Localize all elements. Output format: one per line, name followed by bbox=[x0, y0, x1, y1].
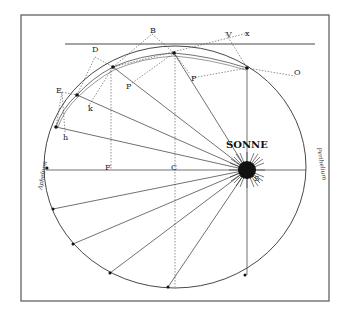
upper-radii bbox=[56, 53, 247, 170]
sun-icon bbox=[229, 152, 265, 188]
label-V: V bbox=[225, 30, 232, 39]
label-B: B bbox=[150, 26, 156, 35]
chord-arc-inner bbox=[58, 56, 246, 127]
aphelion-label: Aphelium bbox=[36, 160, 49, 191]
label-x: x bbox=[245, 29, 250, 38]
label-F: F bbox=[105, 163, 111, 172]
orbit-diagram: SONNE B D E V x O P P k h F C S Aphelium… bbox=[0, 0, 354, 315]
perihelion-label: Perihelium bbox=[316, 146, 329, 181]
lower-radii bbox=[53, 170, 247, 287]
label-P-left: P bbox=[126, 82, 132, 91]
sun-label: SONNE bbox=[226, 139, 268, 150]
chord-arc bbox=[56, 53, 247, 127]
label-S: S bbox=[254, 174, 259, 183]
label-P-right: P bbox=[191, 74, 197, 83]
label-O: O bbox=[294, 68, 301, 77]
label-D: D bbox=[92, 45, 98, 54]
label-k: k bbox=[88, 104, 93, 113]
label-E: E bbox=[56, 86, 62, 95]
label-h: h bbox=[63, 133, 68, 142]
label-C: C bbox=[171, 163, 177, 172]
